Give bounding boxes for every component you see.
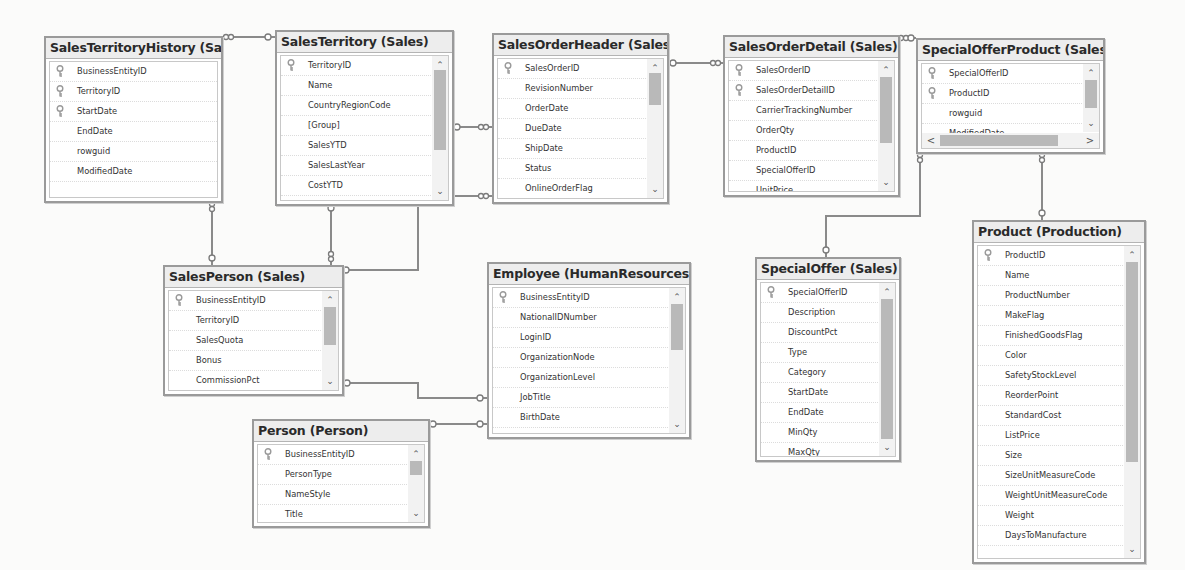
column-row[interactable]: EndDate — [761, 403, 878, 423]
scroll-thumb[interactable] — [434, 70, 446, 150]
column-row[interactable]: MaritalStatus — [493, 428, 668, 434]
column-row[interactable]: BusinessEntityID — [258, 445, 407, 465]
column-row[interactable]: SalesOrderDetailID — [729, 81, 877, 101]
column-row[interactable]: LoginID — [493, 328, 668, 348]
scroll-up-icon[interactable]: ⌃ — [408, 447, 424, 461]
vertical-scrollbar[interactable]: ⌃⌄ — [432, 56, 448, 200]
scroll-down-icon[interactable]: ⌄ — [647, 182, 663, 196]
scroll-up-icon[interactable]: ⌃ — [669, 290, 685, 304]
scroll-down-icon[interactable]: ⌄ — [408, 506, 424, 520]
column-row[interactable]: DueDate — [498, 119, 646, 139]
column-row[interactable]: DiscountPct — [761, 323, 878, 343]
column-row[interactable]: StandardCost — [978, 406, 1123, 426]
table-salesperson[interactable]: SalesPerson (Sales) BusinessEntityIDTerr… — [163, 265, 344, 396]
scroll-down-icon[interactable]: ⌄ — [1124, 542, 1140, 556]
horizontal-scrollbar[interactable]: <> — [922, 133, 1099, 148]
table-specialofferproduct[interactable]: SpecialOfferProduct (Sales) SpecialOffer… — [916, 38, 1105, 154]
column-row[interactable]: ProductID — [922, 84, 1082, 104]
scroll-thumb[interactable] — [410, 461, 422, 475]
column-row[interactable]: ProductID — [729, 141, 877, 161]
column-row[interactable]: CountryRegionCode — [281, 96, 431, 116]
table-salesterritory[interactable]: SalesTerritory (Sales) TerritoryIDNameCo… — [275, 30, 454, 206]
vertical-scrollbar[interactable]: ⌃⌄ — [322, 291, 338, 390]
vertical-scrollbar[interactable]: ⌃⌄ — [1083, 64, 1099, 132]
scroll-down-icon[interactable]: ⌄ — [878, 175, 894, 189]
column-row[interactable]: Type — [761, 343, 878, 363]
vertical-scrollbar[interactable]: ⌃⌄ — [647, 59, 663, 198]
scroll-up-icon[interactable]: ⌃ — [1083, 66, 1099, 80]
scroll-right-icon[interactable]: > — [1083, 133, 1097, 148]
column-row[interactable]: Bonus — [169, 351, 321, 371]
column-row[interactable]: TerritoryID — [50, 82, 217, 102]
column-row[interactable]: SpecialOfferID — [922, 64, 1082, 84]
column-row[interactable]: SizeUnitMeasureCode — [978, 466, 1123, 486]
vertical-scrollbar[interactable]: ⌃⌄ — [408, 445, 424, 522]
column-row[interactable]: ProductNumber — [978, 286, 1123, 306]
scroll-down-icon[interactable]: ⌄ — [432, 184, 448, 198]
column-row[interactable]: BusinessEntityID — [50, 62, 217, 82]
column-row[interactable]: SafetyStockLevel — [978, 366, 1123, 386]
column-row[interactable]: Title — [258, 505, 407, 523]
column-row[interactable]: StartDate — [50, 102, 217, 122]
column-row[interactable]: BusinessEntityID — [169, 291, 321, 311]
column-row[interactable]: OrganizationNode — [493, 348, 668, 368]
table-product[interactable]: Product (Production) ProductIDNameProduc… — [972, 220, 1146, 564]
column-row[interactable]: OnlineOrderFlag — [498, 179, 646, 199]
column-row[interactable]: ListPrice — [978, 426, 1123, 446]
column-row[interactable]: Description — [761, 303, 878, 323]
column-row[interactable]: WeightUnitMeasureCode — [978, 486, 1123, 506]
vertical-scrollbar[interactable]: ⌃⌄ — [878, 61, 894, 191]
column-row[interactable]: MaxQty — [761, 443, 878, 457]
column-row[interactable]: Name — [281, 76, 431, 96]
scroll-up-icon[interactable]: ⌃ — [322, 293, 338, 307]
column-row[interactable]: Weight — [978, 506, 1123, 526]
column-row[interactable]: CommissionPct — [169, 371, 321, 391]
table-person[interactable]: Person (Person) BusinessEntityIDPersonTy… — [252, 419, 430, 528]
column-row[interactable]: PersonType — [258, 465, 407, 485]
column-row[interactable]: ReorderPoint — [978, 386, 1123, 406]
column-row[interactable]: SalesQuota — [169, 331, 321, 351]
scroll-up-icon[interactable]: ⌃ — [1124, 248, 1140, 262]
column-row[interactable]: JobTitle — [493, 388, 668, 408]
vertical-scrollbar[interactable]: ⌃⌄ — [1124, 246, 1140, 558]
column-row[interactable]: TerritoryID — [281, 56, 431, 76]
scroll-thumb[interactable] — [881, 299, 893, 439]
column-row[interactable]: ShipDate — [498, 139, 646, 159]
column-row[interactable]: SpecialOfferID — [729, 161, 877, 181]
column-row[interactable]: TerritoryID — [169, 311, 321, 331]
column-row[interactable]: OrganizationLevel — [493, 368, 668, 388]
column-row[interactable]: MakeFlag — [978, 306, 1123, 326]
table-salesterritoryhistory[interactable]: SalesTerritoryHistory (Sales) BusinessEn… — [44, 36, 223, 203]
column-row[interactable]: SalesYTD — [281, 136, 431, 156]
scroll-down-icon[interactable]: ⌄ — [669, 417, 685, 431]
column-row[interactable]: UnitPrice — [729, 181, 877, 192]
scroll-thumb[interactable] — [1085, 80, 1097, 108]
vertical-scrollbar[interactable]: ⌃⌄ — [669, 288, 685, 433]
scroll-up-icon[interactable]: ⌃ — [879, 285, 895, 299]
column-row[interactable]: DaysToManufacture — [978, 526, 1123, 546]
column-row[interactable]: SalesOrderID — [729, 61, 877, 81]
scroll-down-icon[interactable]: ⌄ — [879, 440, 895, 454]
scroll-thumb[interactable] — [671, 304, 683, 350]
column-row[interactable]: BusinessEntityID — [493, 288, 668, 308]
column-row[interactable]: CarrierTrackingNumber — [729, 101, 877, 121]
column-row[interactable]: Color — [978, 346, 1123, 366]
column-row[interactable]: Name — [978, 266, 1123, 286]
scroll-up-icon[interactable]: ⌃ — [878, 63, 894, 77]
scroll-left-icon[interactable]: < — [924, 133, 938, 148]
scroll-thumb[interactable] — [324, 307, 336, 345]
column-row[interactable]: MinQty — [761, 423, 878, 443]
column-row[interactable]: [Group] — [281, 116, 431, 136]
column-row[interactable]: OrderDate — [498, 99, 646, 119]
column-row[interactable]: Category — [761, 363, 878, 383]
column-row[interactable]: NameStyle — [258, 485, 407, 505]
column-row[interactable]: EndDate — [50, 122, 217, 142]
table-employee[interactable]: Employee (HumanResources) BusinessEntity… — [487, 262, 691, 439]
column-row[interactable]: BirthDate — [493, 408, 668, 428]
scroll-down-icon[interactable]: ⌄ — [1083, 116, 1099, 130]
column-row[interactable]: SpecialOfferID — [761, 283, 878, 303]
scroll-thumb[interactable] — [1126, 262, 1138, 462]
scroll-thumb[interactable] — [880, 77, 892, 143]
table-salesorderdetail[interactable]: SalesOrderDetail (Sales) SalesOrderIDSal… — [723, 35, 900, 197]
column-row[interactable]: SalesOrderID — [498, 59, 646, 79]
